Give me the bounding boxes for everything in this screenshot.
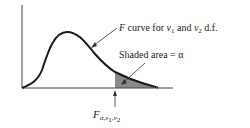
plot-canvas (0, 0, 250, 128)
critical-value-label: Fα,ν1,ν2 (93, 109, 120, 124)
curve-label-suffix: d.f. (202, 22, 218, 33)
sub-nu2-index: 2 (117, 116, 121, 124)
area-pointer-arrow (124, 63, 145, 82)
critical-value-symbol: F (93, 108, 100, 120)
curve-pointer-arrow (93, 28, 117, 46)
curve-arrowhead-icon (91, 42, 97, 48)
critical-arrowhead-icon (113, 90, 117, 96)
critical-value-subscript: α,ν1,ν2 (100, 114, 120, 122)
curve-label-text: curve for (125, 22, 166, 33)
f-curve (22, 32, 157, 88)
curve-label-and: and (174, 22, 193, 33)
curve-label: F curve for ν1 and ν2 d.f. (119, 23, 218, 35)
shaded-area-label: Shaded area = α (119, 50, 183, 60)
f-distribution-diagram: F curve for ν1 and ν2 d.f. Shaded area =… (0, 0, 250, 128)
